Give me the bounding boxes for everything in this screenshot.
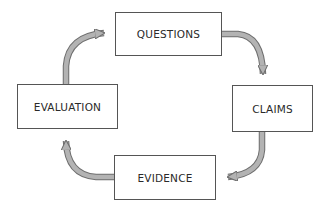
node-label: QUESTIONS xyxy=(137,28,200,40)
arrow-evaluation-to-questions xyxy=(66,33,104,84)
node-claims: CLAIMS xyxy=(232,85,313,132)
node-questions: QUESTIONS xyxy=(115,12,222,56)
node-label: EVALUATION xyxy=(34,101,101,113)
arrow-questions-to-claims xyxy=(222,34,263,74)
node-evidence: EVIDENCE xyxy=(114,155,216,200)
arrow-claims-to-evidence xyxy=(228,132,262,177)
arrow-evidence-to-evaluation xyxy=(66,141,114,177)
node-evaluation: EVALUATION xyxy=(17,84,118,129)
node-label: CLAIMS xyxy=(252,103,293,115)
node-label: EVIDENCE xyxy=(137,172,192,184)
